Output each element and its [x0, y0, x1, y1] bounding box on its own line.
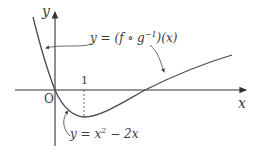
composite-label-pointer [46, 44, 92, 48]
composite-label-suffix: )(x) [157, 31, 178, 45]
composite-label-prefix: y = (f ∘ g [90, 31, 145, 45]
y-axis-label: y [42, 4, 50, 18]
parabola-label: y = x2 − 2x [70, 127, 138, 140]
composite-label-superscript: −1 [145, 30, 157, 39]
parabola-label-suffix: − 2x [106, 127, 138, 141]
origin-label: O [44, 93, 54, 105]
composite-function-label: y = (f ∘ g−1)(x) [90, 31, 177, 44]
x-tick-label-1: 1 [81, 75, 88, 86]
parabola-label-prefix: y = x [70, 127, 101, 141]
function-graph-diagram: y x O 1 y = (f ∘ g−1)(x) y = x2 − 2x [0, 0, 262, 153]
x-axis-label: x [238, 96, 246, 110]
composite-label-pointer-right [150, 45, 164, 72]
